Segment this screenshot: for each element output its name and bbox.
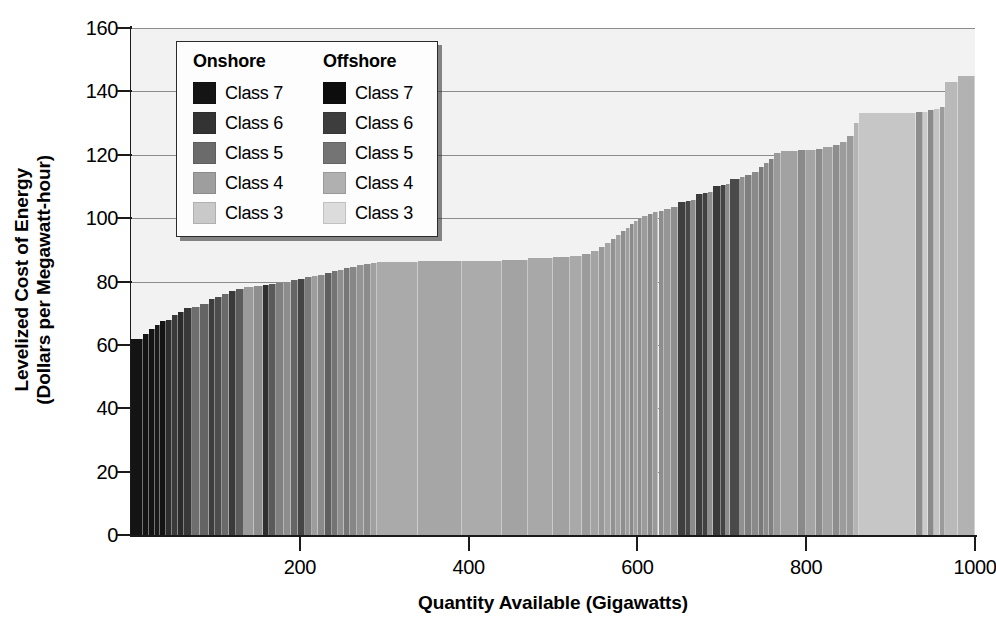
x-tick-label-800: 800 bbox=[790, 556, 822, 579]
x-tick-label-600: 600 bbox=[621, 556, 653, 579]
legend-item[interactable]: Class 7 bbox=[323, 78, 437, 108]
legend-item[interactable]: Class 3 bbox=[323, 198, 437, 228]
y-tick-mark-20 bbox=[117, 471, 132, 473]
y-tick-mark-40 bbox=[117, 407, 132, 409]
legend-item[interactable]: Class 3 bbox=[193, 198, 307, 228]
legend-swatch-icon bbox=[193, 82, 216, 104]
legend-swatch-icon bbox=[193, 172, 216, 194]
legend-item[interactable]: Class 7 bbox=[193, 78, 307, 108]
legend-swatch-icon bbox=[323, 142, 346, 164]
y-tick-mark-0 bbox=[117, 534, 132, 536]
legend-swatch-icon bbox=[193, 202, 216, 224]
legend-title-offshore: Offshore bbox=[323, 51, 437, 72]
legend-item-label: Class 4 bbox=[355, 173, 413, 194]
y-tick-mark-120 bbox=[117, 154, 132, 156]
legend-swatch-icon bbox=[193, 112, 216, 134]
legend-column-offshore: OffshoreClass 7Class 6Class 5Class 4Clas… bbox=[307, 51, 437, 236]
legend-item-label: Class 3 bbox=[225, 203, 283, 224]
legend-item[interactable]: Class 4 bbox=[193, 168, 307, 198]
y-tick-mark-60 bbox=[117, 344, 132, 346]
legend-item-label: Class 7 bbox=[225, 83, 283, 104]
legend-item-label: Class 5 bbox=[225, 143, 283, 164]
y-tick-mark-140 bbox=[117, 90, 132, 92]
legend-item-label: Class 6 bbox=[225, 113, 283, 134]
legend-item-label: Class 7 bbox=[355, 83, 413, 104]
legend-item[interactable]: Class 6 bbox=[193, 108, 307, 138]
legend-item-label: Class 4 bbox=[225, 173, 283, 194]
legend-item[interactable]: Class 4 bbox=[323, 168, 437, 198]
x-tick-mark-800 bbox=[805, 536, 807, 551]
legend-item-label: Class 5 bbox=[355, 143, 413, 164]
x-tick-mark-400 bbox=[468, 536, 470, 551]
legend-swatch-icon bbox=[323, 172, 346, 194]
legend-swatch-icon bbox=[323, 112, 346, 134]
legend-item[interactable]: Class 6 bbox=[323, 108, 437, 138]
x-tick-label-400: 400 bbox=[453, 556, 485, 579]
x-tick-mark-1000 bbox=[974, 536, 976, 551]
legend-title-onshore: Onshore bbox=[193, 51, 307, 72]
y-tick-mark-160 bbox=[117, 27, 132, 29]
legend-item[interactable]: Class 5 bbox=[193, 138, 307, 168]
legend-swatch-icon bbox=[323, 202, 346, 224]
x-tick-mark-200 bbox=[299, 536, 301, 551]
x-tick-label-200: 200 bbox=[284, 556, 316, 579]
legend-column-onshore: OnshoreClass 7Class 6Class 5Class 4Class… bbox=[177, 51, 307, 236]
legend-item-label: Class 6 bbox=[355, 113, 413, 134]
y-tick-mark-80 bbox=[117, 281, 132, 283]
x-tick-label-1000: 1000 bbox=[954, 556, 996, 579]
legend: OnshoreClass 7Class 6Class 5Class 4Class… bbox=[176, 41, 438, 237]
y-tick-mark-100 bbox=[117, 217, 132, 219]
legend-swatch-icon bbox=[193, 142, 216, 164]
legend-swatch-icon bbox=[323, 82, 346, 104]
x-tick-mark-600 bbox=[636, 536, 638, 551]
x-axis-title: Quantity Available (Gigawatts) bbox=[131, 592, 975, 614]
legend-item-label: Class 3 bbox=[355, 203, 413, 224]
legend-item[interactable]: Class 5 bbox=[323, 138, 437, 168]
